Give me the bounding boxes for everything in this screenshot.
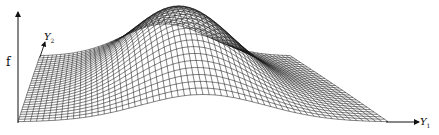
f-axis-label: f xyxy=(6,55,10,69)
surface-plot xyxy=(0,0,439,135)
y2-axis xyxy=(40,42,45,57)
y2-axis-label: Y2 xyxy=(44,31,54,44)
wireframe-mesh xyxy=(18,6,388,122)
y1-axis-label: Y1 xyxy=(420,116,430,129)
